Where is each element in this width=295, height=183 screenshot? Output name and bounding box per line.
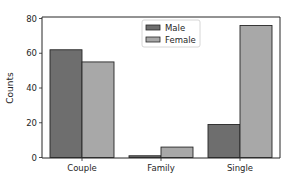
x-axis-ticks: CoupleFamilySingle	[67, 158, 253, 173]
y-tick-label: 40	[26, 83, 37, 93]
legend-swatch-female	[146, 37, 160, 42]
bar-family-female	[161, 147, 193, 157]
bar-family-male	[129, 156, 161, 158]
bar-chart: 020406080 CoupleFamilySingle Counts Male…	[0, 0, 295, 183]
x-tick-label-single: Single	[227, 163, 253, 173]
x-tick-label-couple: Couple	[67, 163, 97, 173]
y-tick-label: 60	[26, 48, 37, 58]
legend-label-female: Female	[165, 35, 196, 45]
y-tick-label: 0	[32, 153, 37, 163]
y-axis-label: Counts	[5, 72, 15, 104]
y-tick-label: 20	[26, 118, 37, 128]
y-tick-label: 80	[26, 14, 37, 24]
bar-single-male	[208, 124, 240, 157]
bar-couple-male	[50, 50, 82, 158]
bar-single-female	[240, 25, 272, 157]
x-tick-label-family: Family	[147, 163, 174, 173]
legend: Male Female	[142, 20, 200, 47]
y-axis-ticks: 020406080	[26, 14, 42, 163]
bar-couple-female	[82, 62, 114, 158]
legend-label-male: Male	[165, 23, 185, 33]
legend-swatch-male	[146, 25, 160, 30]
